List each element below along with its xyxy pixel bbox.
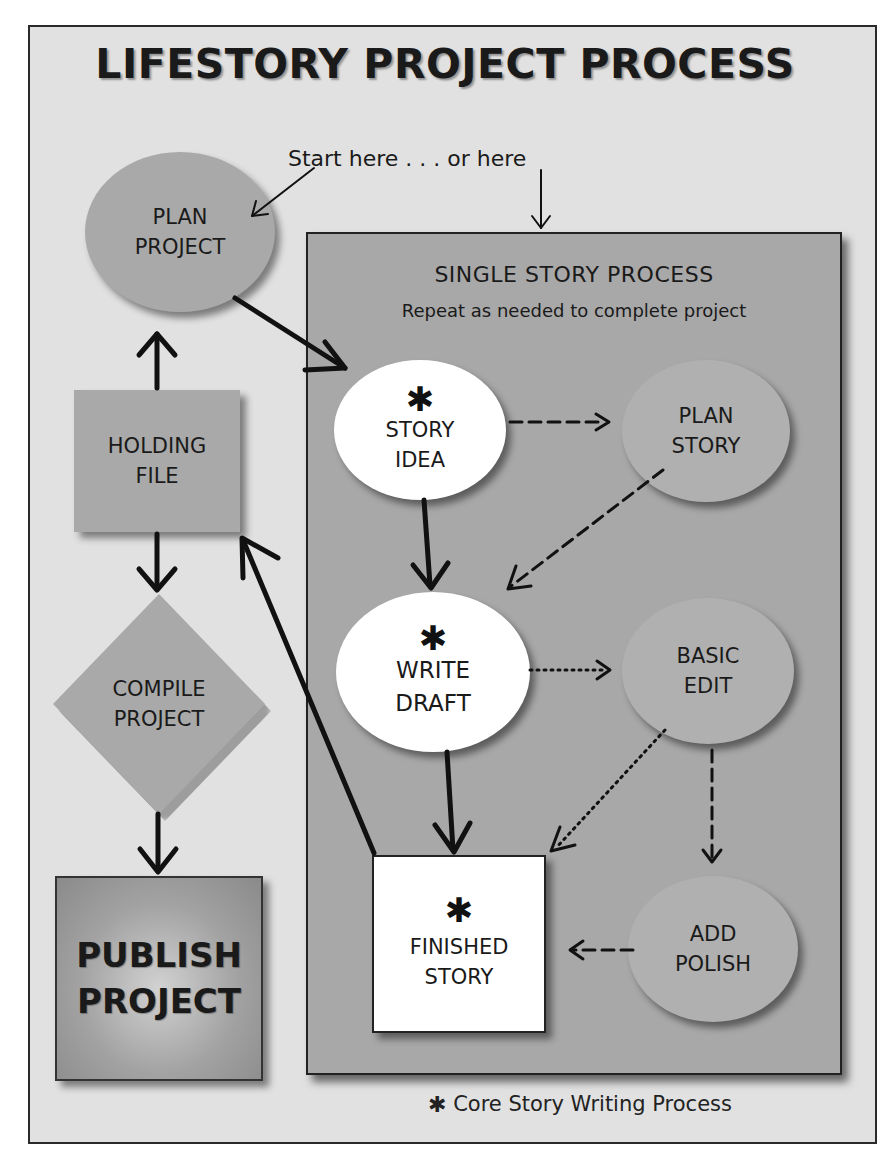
node-label-line2: DRAFT	[395, 687, 470, 720]
node-label: COMPILE PROJECT	[53, 594, 265, 814]
single-story-subtitle: Repeat as needed to complete project	[306, 300, 842, 321]
node-label-line1: COMPILE	[112, 674, 205, 704]
node-label-line2: STORY	[672, 431, 741, 461]
node-label-line1: HOLDING	[108, 431, 206, 461]
node-finished-story: ✱ FINISHED STORY	[372, 855, 546, 1033]
node-compile-project: COMPILE PROJECT	[53, 594, 265, 814]
node-basic-edit: BASIC EDIT	[622, 598, 794, 744]
footnote-text: Core Story Writing Process	[453, 1092, 732, 1116]
node-label-line1: STORY	[386, 415, 455, 445]
node-write-draft: ✱ WRITE DRAFT	[336, 592, 530, 752]
node-label-line2: FILE	[135, 461, 178, 491]
node-label-line1: WRITE	[396, 654, 470, 687]
node-label-line1: BASIC	[677, 641, 740, 671]
single-story-title: SINGLE STORY PROCESS	[306, 262, 842, 287]
node-label-line1: ADD	[690, 919, 737, 949]
core-asterisk-icon: ✱	[419, 623, 448, 654]
node-publish-project: PUBLISH PROJECT	[55, 876, 263, 1081]
node-holding-file: HOLDING FILE	[74, 390, 240, 532]
node-label-line2: STORY	[425, 962, 494, 992]
node-label-line1: FINISHED	[410, 932, 509, 962]
node-label-line2: PROJECT	[77, 979, 241, 1025]
start-label: Start here . . . or here	[288, 146, 526, 171]
node-label-line2: IDEA	[395, 445, 445, 475]
node-label-line1: PLAN	[153, 202, 208, 232]
node-label-line1: PUBLISH	[76, 933, 242, 979]
node-label-line2: PROJECT	[114, 704, 205, 734]
core-asterisk-icon: ✱	[406, 384, 435, 415]
footnote: ✱ Core Story Writing Process	[350, 1092, 810, 1117]
node-label-line1: PLAN	[679, 401, 734, 431]
node-plan-story: PLAN STORY	[622, 360, 790, 502]
core-asterisk-icon: ✱	[445, 895, 474, 926]
node-story-idea: ✱ STORY IDEA	[334, 360, 506, 500]
node-plan-project: PLAN PROJECT	[85, 152, 275, 312]
node-label-line2: EDIT	[684, 671, 732, 701]
node-label-line2: PROJECT	[135, 232, 226, 262]
node-label-line2: POLISH	[675, 949, 751, 979]
diagram-title: LIFESTORY PROJECT PROCESS	[0, 40, 890, 88]
node-add-polish: ADD POLISH	[628, 876, 798, 1022]
core-asterisk-icon: ✱	[428, 1092, 446, 1117]
